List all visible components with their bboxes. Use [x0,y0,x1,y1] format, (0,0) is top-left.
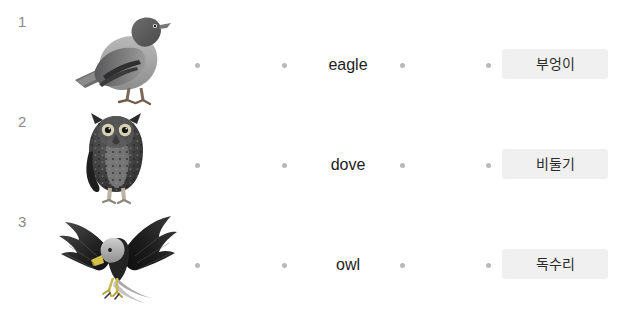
korean-word-label: 독수리 [536,257,575,271]
matching-row: 3 [0,208,629,308]
korean-word-chip[interactable]: 부엉이 [502,49,608,79]
connector-dot-right-chip[interactable] [486,263,491,268]
row-number: 1 [18,14,27,29]
connector-dot-right-chip[interactable] [486,163,491,168]
matching-row: 1 [0,8,629,108]
connector-dot-left-word[interactable] [282,263,287,268]
row-number: 3 [18,214,27,229]
korean-word-chip[interactable]: 독수리 [502,249,608,279]
owl-photo [55,108,177,208]
row-number: 2 [18,114,27,129]
korean-word-label: 부엉이 [536,57,575,71]
connector-dot-left-image[interactable] [195,63,200,68]
connector-dot-right-word[interactable] [400,163,405,168]
connector-dot-left-image[interactable] [195,163,200,168]
korean-word-chip[interactable]: 비둘기 [502,149,608,179]
english-word: eagle [300,53,396,77]
matching-row: 2 [0,108,629,208]
connector-dot-right-word[interactable] [400,63,405,68]
connector-dot-left-word[interactable] [282,163,287,168]
connector-dot-right-chip[interactable] [486,63,491,68]
english-word: owl [300,253,396,277]
connector-dot-left-word[interactable] [282,63,287,68]
pigeon-photo [55,8,177,108]
connector-dot-right-word[interactable] [400,263,405,268]
eagle-photo [55,208,177,308]
connector-dot-left-image[interactable] [195,263,200,268]
matching-exercise: 1 [0,0,629,318]
english-word: dove [300,153,396,177]
korean-word-label: 비둘기 [536,157,575,171]
